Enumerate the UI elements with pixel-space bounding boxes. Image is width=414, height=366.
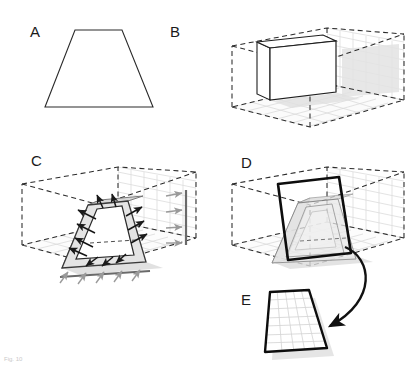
panel-label-d: D [241,154,252,171]
panel-d-group [232,167,404,326]
panel-e-group [263,289,334,360]
panel-label-b: B [170,23,180,40]
panel-b-box-side [257,42,270,100]
panel-c-group [22,167,196,284]
panel-b-box [257,35,336,100]
figure-caption: Fig. 10 [4,356,23,362]
figure-canvas: A B C D E Fig. 10 [0,0,414,366]
panel-a-trapezoid [45,30,153,107]
panel-a-group [45,30,153,107]
figure-container: A B C D E Fig. 10 [0,0,414,366]
panel-label-e: E [241,291,251,308]
panel-c-frustum [62,196,146,268]
panel-label-c: C [31,152,42,169]
panel-b-group [232,28,404,127]
panel-label-a: A [30,23,40,40]
panel-b-box-front [270,41,336,100]
